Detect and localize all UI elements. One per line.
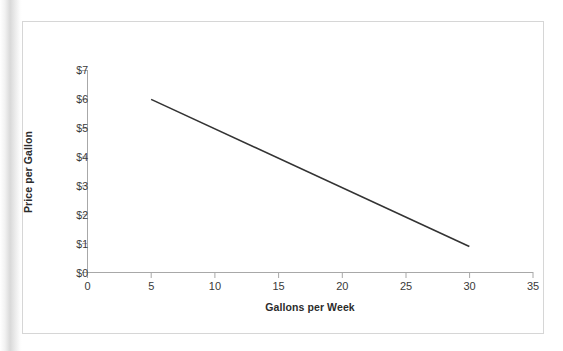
y-tick-label: $0	[48, 268, 88, 278]
y-tick-label: $2	[48, 210, 88, 220]
x-tick-label: 25	[386, 281, 426, 292]
x-axis-title: Gallons per Week	[87, 301, 533, 313]
y-tick-label: $4	[48, 152, 88, 162]
y-tick-label: $3	[48, 181, 88, 191]
x-tick-label: 0	[68, 281, 108, 292]
x-tick-label: 5	[131, 281, 171, 292]
y-tick-label: $6	[48, 94, 88, 104]
y-tick-label: $1	[48, 239, 88, 249]
y-tick-label: $5	[48, 123, 88, 133]
x-axis-tick-label-group: 0 5 10 15 20 25 30 35	[0, 281, 563, 301]
y-tick-label: $7	[48, 65, 88, 75]
x-tick-label: 15	[259, 281, 299, 292]
y-axis-title: Price per Gallon	[22, 108, 34, 236]
x-tick-label: 30	[450, 281, 490, 292]
demand-curve-line	[151, 99, 469, 246]
x-tick-label: 20	[322, 281, 362, 292]
x-tick-label: 10	[195, 281, 235, 292]
x-tick-label: 35	[513, 281, 553, 292]
